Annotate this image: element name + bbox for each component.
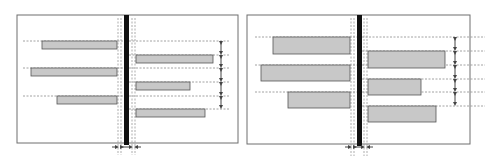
panels-root (17, 15, 485, 156)
left-bar (273, 37, 350, 54)
right-bar (368, 106, 436, 122)
diagram-canvas (0, 0, 495, 168)
right-panel (247, 15, 485, 156)
left-bar (261, 65, 350, 81)
right-bar (368, 79, 421, 95)
left-bar (31, 68, 117, 76)
right-bar (368, 51, 445, 68)
left-bar (57, 96, 117, 104)
right-bar (136, 109, 205, 117)
left-bar (288, 92, 350, 108)
right-bar (136, 55, 213, 63)
left-bar (42, 41, 117, 49)
left-panel (17, 15, 238, 155)
right-bar (136, 82, 190, 90)
center-bar (357, 15, 362, 146)
center-bar (124, 15, 129, 145)
